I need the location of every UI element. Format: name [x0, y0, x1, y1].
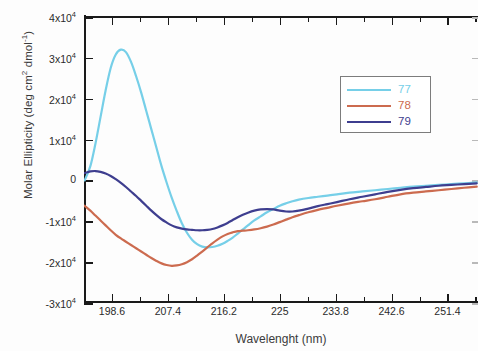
plot-area: [84, 17, 478, 303]
y-tick-label: 0: [20, 173, 76, 185]
legend-item-77[interactable]: 77: [341, 82, 430, 98]
cd-spectrum-figure: Molar Ellipticity (deg cm2 dmol-1) 4x104…: [0, 0, 478, 351]
x-axis-title: Wavelenght (nm): [84, 332, 478, 346]
legend-item-79[interactable]: 79: [341, 114, 430, 130]
legend: 777879: [340, 76, 431, 133]
legend-label-77: 77: [398, 84, 411, 96]
right-tick-mark: [472, 303, 478, 305]
legend-swatch-78: [347, 105, 391, 108]
legend-label-78: 78: [398, 100, 411, 112]
x-tick-label: 198.6: [82, 305, 142, 317]
y-tick-label: -2x104: [20, 255, 76, 269]
y-tick-label: 3x104: [20, 51, 76, 65]
y-tick-label: -1x104: [20, 214, 76, 228]
x-tick-label: 207.4: [138, 305, 198, 317]
legend-swatch-79: [347, 121, 391, 124]
y-tick-label: 2x104: [20, 92, 76, 106]
legend-item-78[interactable]: 78: [341, 98, 430, 114]
legend-label-79: 79: [398, 116, 411, 128]
y-tick-mark: [86, 303, 93, 305]
x-tick-label: 225: [250, 305, 310, 317]
x-tick-label: 251.4: [417, 305, 477, 317]
y-tick-label: 4x104: [20, 10, 76, 24]
x-tick-label: 242.6: [362, 305, 422, 317]
y-tick-label: 1x104: [20, 133, 76, 147]
y-tick-label: -3x104: [20, 296, 76, 310]
y-axis-tick-labels: 4x1043x1042x1041x1040-1x104-2x104-3x104: [20, 0, 76, 351]
x-tick-label: 216.2: [194, 305, 254, 317]
series-line-78: [85, 187, 477, 266]
legend-swatch-77: [347, 89, 391, 92]
x-tick-label: 233.8: [306, 305, 366, 317]
